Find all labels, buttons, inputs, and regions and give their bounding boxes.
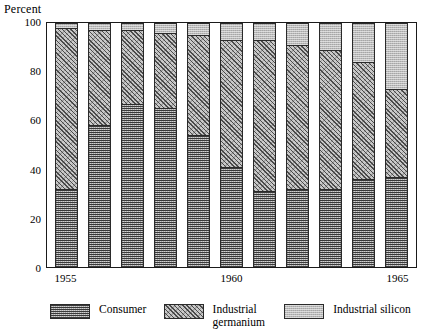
bar-segment-consumer [220,167,242,267]
stacked-bar[interactable] [385,23,407,267]
bar-segment-silicon [352,23,374,62]
chart-root: Percent 100806040200 195519601965 Consum… [0,0,429,336]
bar-segment-germanium [187,35,209,135]
bar-slot [83,23,116,267]
stacked-bar[interactable] [88,23,110,267]
bar-slot [347,23,380,267]
bar-slot [116,23,149,267]
bar-segment-consumer [319,189,341,267]
stacked-bar[interactable] [55,23,77,267]
bar-segment-consumer [253,191,275,267]
y-tick-label: 100 [1,16,41,28]
legend-swatch-consumer [50,304,90,319]
x-tick-label: 1960 [207,272,257,284]
legend-label-silicon: Industrial silicon [333,303,411,316]
bar-segment-germanium [319,50,341,189]
legend-label-consumer: Consumer [99,303,146,316]
y-tick-label: 40 [1,164,41,176]
bar-slot [380,23,413,267]
y-tick-label: 80 [1,65,41,77]
bar-segment-consumer [352,179,374,267]
bar-segment-germanium [352,62,374,179]
bar-segment-consumer [385,177,407,267]
bar-slot [149,23,182,267]
plot-area [46,22,417,268]
bar-segment-germanium [385,89,407,177]
chart-legend: Consumer Industrial germanium Industrial… [46,303,424,335]
bar-segment-germanium [55,28,77,189]
bar-segment-silicon [253,23,275,40]
bar-slot [50,23,83,267]
bar-segment-consumer [88,125,110,267]
legend-swatch-silicon [284,304,324,319]
bar-segment-consumer [55,189,77,267]
bar-slot [314,23,347,267]
bar-segment-silicon [154,23,176,33]
bar-segment-silicon [319,23,341,50]
stacked-bar[interactable] [121,23,143,267]
bar-group [47,23,416,267]
y-tick-label: 60 [1,114,41,126]
bar-segment-germanium [286,45,308,189]
bar-segment-germanium [154,33,176,109]
y-tick-label: 0 [1,262,41,274]
bar-segment-consumer [121,104,143,267]
stacked-bar[interactable] [319,23,341,267]
stacked-bar[interactable] [253,23,275,267]
bar-slot [182,23,215,267]
bar-segment-consumer [286,189,308,267]
x-tick-label: 1965 [372,272,422,284]
bar-segment-silicon [88,23,110,30]
bar-segment-germanium [88,30,110,125]
bar-slot [248,23,281,267]
legend-swatch-germanium [164,304,204,319]
stacked-bar[interactable] [187,23,209,267]
legend-item-silicon: Industrial silicon [284,303,424,319]
bar-segment-silicon [286,23,308,45]
y-axis-title: Percent [4,2,41,17]
legend-item-consumer: Consumer [50,303,164,319]
bar-segment-silicon [385,23,407,89]
stacked-bar[interactable] [286,23,308,267]
stacked-bar[interactable] [220,23,242,267]
bar-slot [215,23,248,267]
bar-slot [281,23,314,267]
bar-segment-consumer [187,135,209,267]
bar-segment-germanium [220,40,242,167]
legend-item-germanium: Industrial germanium [164,303,285,329]
legend-label-germanium: Industrial germanium [213,303,265,329]
x-tick-label: 1955 [41,272,91,284]
bar-segment-consumer [154,108,176,267]
stacked-bar[interactable] [154,23,176,267]
bar-segment-silicon [121,23,143,30]
bar-segment-germanium [121,30,143,103]
bar-segment-germanium [253,40,275,191]
y-tick-label: 20 [1,213,41,225]
stacked-bar[interactable] [352,23,374,267]
bar-segment-silicon [220,23,242,40]
bar-segment-silicon [187,23,209,35]
